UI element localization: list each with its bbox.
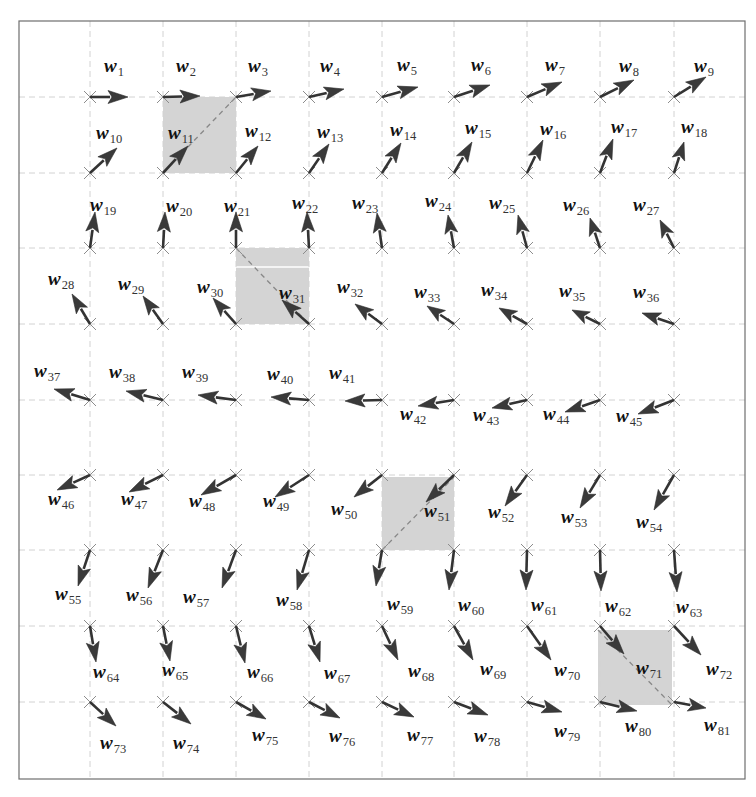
label-w2: w2 bbox=[176, 55, 196, 79]
arrow-w64-icon bbox=[86, 626, 99, 662]
label-w6: w6 bbox=[471, 54, 491, 78]
label-w26: w26 bbox=[563, 194, 589, 218]
label-w64: w64 bbox=[93, 661, 120, 685]
arrow-w30-icon bbox=[213, 298, 236, 324]
arrow-w61-icon bbox=[520, 550, 533, 590]
arrow-w54-icon bbox=[654, 475, 674, 510]
arrow-w52-icon bbox=[505, 475, 527, 506]
arrow-w15-icon bbox=[454, 142, 472, 173]
arrow-w57-icon bbox=[222, 550, 236, 588]
label-w76: w76 bbox=[329, 725, 355, 749]
label-w22: w22 bbox=[292, 192, 318, 216]
arrow-w50-icon bbox=[354, 475, 382, 497]
label-w10: w10 bbox=[96, 122, 122, 146]
label-w34: w34 bbox=[481, 279, 508, 303]
arrow-w62-icon bbox=[594, 550, 607, 591]
label-w29: w29 bbox=[118, 273, 144, 297]
label-w21: w21 bbox=[224, 195, 250, 219]
arrow-w74-icon bbox=[163, 702, 191, 724]
label-w20: w20 bbox=[166, 195, 192, 219]
arrow-w63-icon bbox=[669, 550, 682, 592]
label-w7: w7 bbox=[545, 54, 565, 78]
label-w32: w32 bbox=[337, 276, 363, 300]
label-w81: w81 bbox=[704, 714, 730, 738]
arrow-w75-icon bbox=[236, 702, 266, 719]
arrow-w65-icon bbox=[160, 626, 173, 661]
label-w41: w41 bbox=[329, 362, 355, 386]
label-w73: w73 bbox=[100, 732, 126, 756]
label-w77: w77 bbox=[407, 724, 433, 748]
label-w16: w16 bbox=[540, 118, 566, 142]
label-w39: w39 bbox=[182, 361, 208, 385]
label-w14: w14 bbox=[390, 119, 417, 143]
label-w61: w61 bbox=[531, 594, 557, 618]
label-w67: w67 bbox=[324, 662, 350, 686]
arrow-w14-icon bbox=[382, 143, 401, 173]
label-w4: w4 bbox=[320, 55, 341, 79]
label-w45: w45 bbox=[616, 405, 642, 429]
label-w46: w46 bbox=[48, 488, 74, 512]
arrow-w16-icon bbox=[527, 140, 543, 173]
label-w59: w59 bbox=[387, 593, 413, 617]
label-w40: w40 bbox=[267, 363, 293, 387]
arrow-w13-icon bbox=[309, 144, 329, 173]
label-w68: w68 bbox=[408, 660, 434, 684]
arrow-w45-icon bbox=[638, 400, 674, 414]
arrow-w19-icon bbox=[86, 212, 99, 248]
label-w24: w24 bbox=[425, 190, 452, 214]
label-w50: w50 bbox=[331, 498, 357, 522]
label-w12: w12 bbox=[245, 120, 271, 144]
arrow-w48-icon bbox=[201, 475, 236, 495]
label-w38: w38 bbox=[109, 361, 135, 385]
arrow-w47-icon bbox=[129, 475, 163, 492]
arrow-w35-icon bbox=[572, 310, 600, 324]
arrow-w69-icon bbox=[454, 626, 473, 660]
label-w28: w28 bbox=[48, 268, 74, 292]
label-w13: w13 bbox=[317, 121, 343, 145]
label-w65: w65 bbox=[162, 659, 188, 683]
arrow-w10-icon bbox=[90, 148, 117, 173]
arrow-w34-icon bbox=[499, 308, 527, 324]
label-w30: w30 bbox=[197, 276, 223, 300]
label-w75: w75 bbox=[252, 724, 278, 748]
weight-vector-diagram: Weight vector grid (9x9 self-organizing … bbox=[0, 0, 756, 797]
label-w54: w54 bbox=[636, 511, 663, 535]
arrow-w4-icon bbox=[309, 87, 344, 100]
arrow-w78-icon bbox=[454, 702, 488, 715]
label-w62: w62 bbox=[605, 595, 631, 619]
label-w57: w57 bbox=[183, 586, 209, 610]
label-w74: w74 bbox=[173, 732, 200, 756]
arrow-w59-icon bbox=[373, 550, 386, 586]
label-w23: w23 bbox=[352, 192, 378, 216]
label-w36: w36 bbox=[633, 281, 659, 305]
arrow-w33-icon bbox=[427, 306, 454, 324]
arrow-w28-icon bbox=[72, 294, 90, 324]
label-w3: w3 bbox=[248, 55, 268, 79]
arrow-w49-icon bbox=[275, 475, 309, 497]
label-w55: w55 bbox=[55, 583, 81, 607]
arrow-w39-icon bbox=[198, 391, 236, 404]
label-w17: w17 bbox=[611, 116, 637, 140]
label-w58: w58 bbox=[276, 589, 302, 613]
arrow-w68-icon bbox=[382, 626, 398, 660]
label-w44: w44 bbox=[543, 403, 570, 427]
label-w53: w53 bbox=[561, 506, 587, 530]
arrow-w76-icon bbox=[309, 702, 340, 718]
arrow-w77-icon bbox=[382, 702, 414, 717]
label-w79: w79 bbox=[554, 720, 580, 744]
arrow-w73-icon bbox=[90, 702, 116, 726]
label-w66: w66 bbox=[247, 661, 273, 685]
label-w69: w69 bbox=[480, 658, 506, 682]
label-w70: w70 bbox=[554, 659, 580, 683]
label-w47: w47 bbox=[121, 488, 147, 512]
label-w78: w78 bbox=[474, 725, 500, 749]
label-w60: w60 bbox=[458, 594, 484, 618]
label-w25: w25 bbox=[489, 192, 515, 216]
label-w9: w9 bbox=[694, 55, 714, 79]
label-w80: w80 bbox=[625, 715, 651, 739]
arrow-w72-icon bbox=[674, 626, 701, 655]
arrow-w9-icon bbox=[674, 77, 706, 97]
label-w27: w27 bbox=[633, 194, 659, 218]
label-w18: w18 bbox=[681, 116, 707, 140]
arrow-w81-icon bbox=[674, 698, 706, 711]
